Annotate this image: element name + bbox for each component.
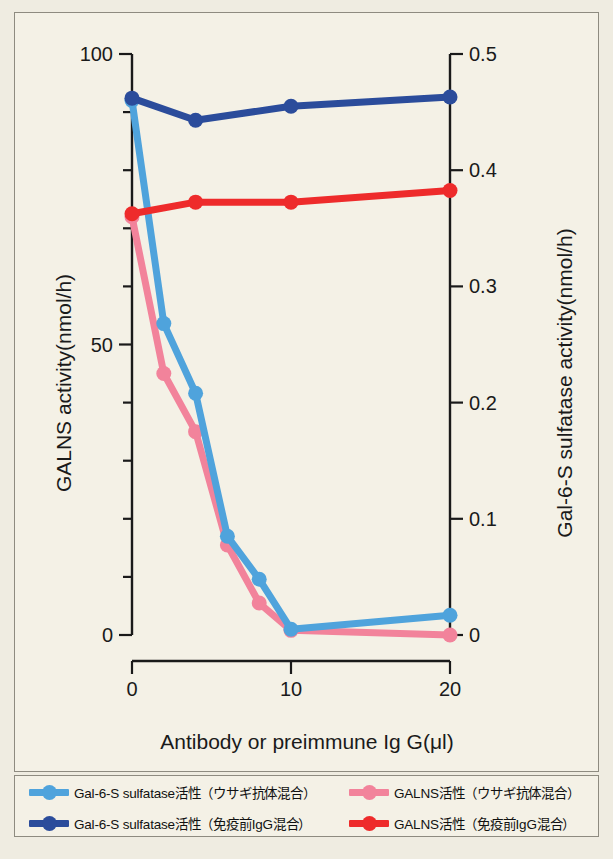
legend-grid: Gal-6-S sulfatase活性（ウサギ抗体混合） GALNS活性（ウサギ… — [15, 776, 600, 838]
data-point — [443, 608, 458, 623]
series-galns-rabbit-antibody — [125, 209, 458, 642]
legend-label: GALNS活性（ウサギ抗体混合） — [394, 782, 580, 802]
x-axis-tick-label: 10 — [280, 679, 302, 699]
legend-item-gal6s-preimmune-igg[interactable]: Gal-6-S sulfatase活性（免疫前IgG混合） — [29, 813, 349, 833]
legend-box: Gal-6-S sulfatase活性（ウサギ抗体混合） GALNS活性（ウサギ… — [14, 775, 599, 837]
chart-frame: 05010000.10.20.30.40.501020 GALNS activi… — [14, 12, 599, 772]
y-axis-left-tick-label: 100 — [80, 44, 113, 64]
legend-swatch-icon — [29, 784, 69, 800]
legend-label: Gal-6-S sulfatase活性（免疫前IgG混合） — [74, 813, 311, 833]
data-point — [188, 386, 203, 401]
series-gal6s-rabbit-antibody — [125, 93, 458, 637]
plot-canvas — [15, 13, 600, 773]
x-axis-tick-label: 20 — [439, 679, 461, 699]
chart-page: 05010000.10.20.30.40.501020 GALNS activi… — [0, 0, 613, 859]
data-point — [125, 91, 140, 106]
y-axis-right-tick-label: 0.1 — [469, 509, 497, 529]
series-layer — [125, 89, 458, 642]
axes-layer — [119, 54, 463, 674]
legend-swatch-icon — [349, 784, 389, 800]
legend-item-galns-preimmune-igg[interactable]: GALNS活性（免疫前IgG混合） — [349, 813, 613, 833]
data-point — [284, 622, 299, 637]
series-line — [132, 100, 450, 629]
legend-item-galns-rabbit-antibody[interactable]: GALNS活性（ウサギ抗体混合） — [349, 782, 613, 802]
y-axis-left-tick-label: 0 — [102, 625, 113, 645]
data-point — [125, 206, 140, 221]
data-point — [443, 183, 458, 198]
data-point — [156, 366, 171, 381]
legend-swatch-icon — [349, 815, 389, 831]
y-axis-right-title: Gal-6-S sulfatase activity(nmol/h) — [554, 228, 575, 537]
x-axis-tick-label: 0 — [126, 679, 137, 699]
data-point — [443, 89, 458, 104]
data-point — [252, 572, 267, 587]
y-axis-right-tick-label: 0.4 — [469, 160, 497, 180]
y-axis-right-tick-label: 0 — [469, 625, 480, 645]
series-gal6s-preimmune-igg — [125, 89, 458, 127]
y-axis-right-tick-label: 0.3 — [469, 276, 497, 296]
y-axis-right-tick-label: 0.2 — [469, 393, 497, 413]
series-line — [132, 217, 450, 635]
series-galns-preimmune-igg — [125, 183, 458, 221]
legend-label: GALNS活性（免疫前IgG混合） — [394, 813, 575, 833]
y-axis-left-title: GALNS activity(nmol/h) — [53, 274, 74, 492]
y-axis-left-tick-label: 50 — [91, 335, 113, 355]
data-point — [188, 195, 203, 210]
x-axis-title: Antibody or preimmune Ig G(μl) — [160, 731, 453, 752]
legend-label: Gal-6-S sulfatase活性（ウサギ抗体混合） — [74, 782, 316, 802]
y-axis-right-tick-label: 0.5 — [469, 44, 497, 64]
legend-swatch-icon — [29, 815, 69, 831]
data-point — [284, 195, 299, 210]
data-point — [188, 113, 203, 128]
data-point — [156, 316, 171, 331]
data-point — [252, 596, 267, 611]
legend-item-gal6s-rabbit-antibody[interactable]: Gal-6-S sulfatase活性（ウサギ抗体混合） — [29, 782, 349, 802]
data-point — [284, 99, 299, 114]
data-point — [443, 628, 458, 643]
plot-area: 05010000.10.20.30.40.501020 GALNS activi… — [15, 13, 600, 773]
data-point — [220, 529, 235, 544]
